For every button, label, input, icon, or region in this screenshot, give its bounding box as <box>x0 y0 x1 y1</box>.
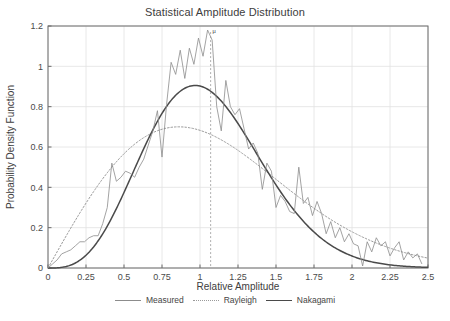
y-axis-title: Probability Density Function <box>5 85 16 209</box>
x-axis-title: Relative Amplitude <box>197 281 280 292</box>
svg-text:0: 0 <box>38 263 43 273</box>
legend-line-rayleigh-icon <box>193 297 219 304</box>
y-tick-labels: 00.20.40.60.811.2 <box>30 21 43 273</box>
svg-text:0.2: 0.2 <box>30 223 43 233</box>
svg-text:1.75: 1.75 <box>305 272 323 282</box>
svg-text:μ: μ <box>212 27 216 35</box>
svg-text:0: 0 <box>45 272 50 282</box>
svg-text:1: 1 <box>38 62 43 72</box>
svg-text:2: 2 <box>349 272 354 282</box>
svg-text:0.75: 0.75 <box>153 272 171 282</box>
legend-label-measured: Measured <box>146 295 184 305</box>
svg-text:0.4: 0.4 <box>30 183 43 193</box>
legend-line-nakagami-icon <box>266 297 292 304</box>
svg-text:0.25: 0.25 <box>77 272 95 282</box>
legend-label-rayleigh: Rayleigh <box>224 295 257 305</box>
legend-item-nakagami[interactable]: Nakagami <box>266 295 335 305</box>
svg-text:2.25: 2.25 <box>381 272 399 282</box>
grid-lines <box>48 26 428 268</box>
plot-area: 00.250.50.7511.251.51.7522.252.5 00.20.4… <box>0 0 450 321</box>
svg-text:0.8: 0.8 <box>30 102 43 112</box>
chart-figure: Statistical Amplitude Distribution 00.25… <box>0 0 450 321</box>
legend-item-measured[interactable]: Measured <box>115 295 184 305</box>
legend-line-measured-icon <box>115 297 141 304</box>
svg-text:2.5: 2.5 <box>422 272 435 282</box>
svg-text:1.2: 1.2 <box>30 21 43 31</box>
legend-item-rayleigh[interactable]: Rayleigh <box>193 295 257 305</box>
svg-text:0.6: 0.6 <box>30 142 43 152</box>
chart-legend: Measured Rayleigh Nakagami <box>0 295 450 305</box>
svg-text:0.5: 0.5 <box>118 272 131 282</box>
legend-label-nakagami: Nakagami <box>297 295 335 305</box>
